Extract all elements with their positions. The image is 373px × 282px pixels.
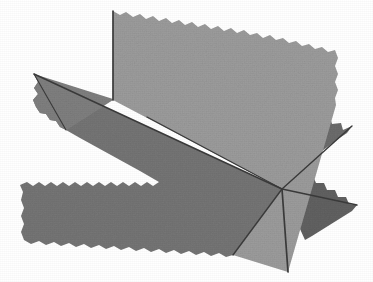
figure-canvas: Three intersecting planes in space Grays… xyxy=(0,0,373,282)
three-planes-diagram xyxy=(0,0,373,282)
